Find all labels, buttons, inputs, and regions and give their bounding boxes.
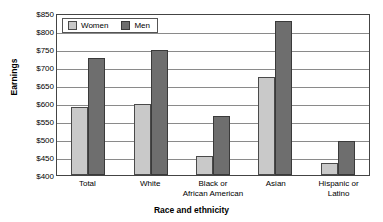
women-swatch-icon [68, 21, 77, 30]
bar-group [57, 15, 119, 175]
x-tick-label: Hispanic orLatino [307, 179, 370, 199]
x-tick-label: White [119, 179, 182, 199]
bar-women-4 [321, 163, 338, 175]
x-axis-title: Race and ethnicity [0, 205, 383, 215]
bar-groups [57, 15, 369, 175]
bar-women-0 [71, 107, 88, 175]
x-tick-label-line: Black or [182, 179, 245, 189]
y-axis-tick-labels: $850$800$750$700$650$600$550$500$450$400 [14, 10, 54, 176]
y-tick-label: $800 [36, 28, 54, 37]
bar-men-4 [338, 141, 355, 175]
bar-men-2 [213, 116, 230, 175]
bar-group [119, 15, 181, 175]
bar-men-1 [151, 50, 168, 175]
y-tick-label: $450 [36, 154, 54, 163]
bar-men-0 [88, 58, 105, 175]
y-tick-label: $850 [36, 10, 54, 19]
x-tick-label-line: Latino [307, 189, 370, 199]
x-tick-label-line: White [119, 179, 182, 189]
bar-group [307, 15, 369, 175]
chart-legend: Women Men [62, 18, 158, 33]
x-axis-tick-labels: TotalWhiteBlack orAfrican AmericanAsianH… [56, 179, 370, 199]
earnings-bar-chart: Earnings $850$800$750$700$650$600$550$50… [0, 0, 383, 222]
x-tick-label: Total [56, 179, 119, 199]
bar-men-3 [275, 21, 292, 175]
legend-item-women: Women [68, 21, 108, 30]
y-tick-label: $700 [36, 64, 54, 73]
bar-group [182, 15, 244, 175]
legend-label-women: Women [81, 21, 108, 30]
x-tick-label-line: Total [56, 179, 119, 189]
bar-women-2 [196, 156, 213, 175]
plot-area [56, 14, 370, 176]
legend-label-men: Men [134, 21, 150, 30]
bar-women-1 [134, 104, 151, 175]
y-tick-label: $650 [36, 82, 54, 91]
x-tick-label-line: Asian [244, 179, 307, 189]
x-tick-label: Asian [244, 179, 307, 199]
x-tick-label-line: African American [182, 189, 245, 199]
x-tick-label: Black orAfrican American [182, 179, 245, 199]
bar-women-3 [258, 77, 275, 175]
y-tick-label: $600 [36, 100, 54, 109]
y-tick-label: $500 [36, 136, 54, 145]
y-tick-label: $550 [36, 118, 54, 127]
legend-item-men: Men [121, 21, 150, 30]
y-tick-label: $400 [36, 172, 54, 181]
men-swatch-icon [121, 21, 130, 30]
bar-group [244, 15, 306, 175]
y-tick-label: $750 [36, 46, 54, 55]
x-tick-label-line: Hispanic or [307, 179, 370, 189]
